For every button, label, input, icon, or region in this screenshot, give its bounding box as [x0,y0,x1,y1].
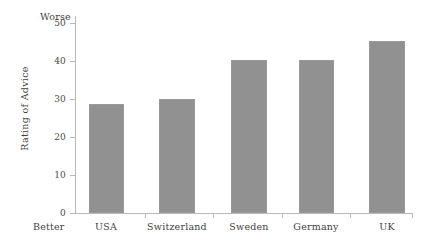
bar-uk [369,41,405,213]
y-tick-label-20: 20 [40,132,66,142]
x-label-germany: Germany [286,221,346,232]
x-label-usa: USA [76,221,136,232]
y-axis-title: Rating of Advice [19,39,30,179]
y-tick-10 [70,175,76,176]
y-tick-50 [70,23,76,24]
annotation-worse: Worse [40,11,71,22]
x-label-sweden: Sweden [219,221,279,232]
y-tick-20 [70,137,76,138]
x-label-uk: UK [357,221,417,232]
plot-area: 0 10 20 30 40 50 USA Switzerland Sweden … [0,0,429,249]
bar-sweden [231,60,267,213]
bar-germany [299,60,334,213]
x-tick-1 [145,213,146,218]
y-tick-0 [70,213,76,214]
bar-usa [89,104,124,213]
y-tick-label-0: 0 [40,208,66,218]
y-tick-40 [70,61,76,62]
y-tick-label-10: 10 [40,170,66,180]
y-tick-label-30: 30 [40,94,66,104]
x-tick-2 [213,213,214,218]
x-tick-4 [350,213,351,218]
x-tick-5 [412,213,413,218]
annotation-better: Better [33,221,65,232]
y-tick-label-40: 40 [40,56,66,66]
y-axis-line [75,16,76,214]
x-label-switzerland: Switzerland [142,221,212,232]
bar-switzerland [159,99,195,213]
x-axis-line [75,213,413,214]
x-tick-3 [282,213,283,218]
y-tick-30 [70,99,76,100]
bar-chart: 0 10 20 30 40 50 USA Switzerland Sweden … [0,0,429,249]
